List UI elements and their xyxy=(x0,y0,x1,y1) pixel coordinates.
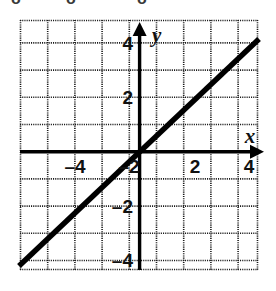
x-axis-name-label: x xyxy=(244,124,256,148)
x-tick-label--2: –2 xyxy=(118,156,139,177)
x-tick-label-4: 4 xyxy=(244,156,255,177)
artifact-glyph-3: o xyxy=(137,0,147,8)
y-tick-label--2: –2 xyxy=(112,196,133,217)
artifact-glyph-1: o xyxy=(11,0,21,8)
y-tick-label--4: –4 xyxy=(112,250,134,271)
y-tick-label-2: 2 xyxy=(122,87,133,108)
y-tick-label-4: 4 xyxy=(122,33,133,54)
x-tick-label--4: –4 xyxy=(64,156,86,177)
graph-canvas: –4 –2 2 4 4 2 –2 –4 y x xyxy=(0,0,276,291)
coordinate-graph-figure: o o o xyxy=(0,0,276,291)
artifact-glyph-2: o xyxy=(66,0,76,8)
x-tick-label-2: 2 xyxy=(190,156,201,177)
top-cut-text-artifact: o o o xyxy=(0,0,276,10)
